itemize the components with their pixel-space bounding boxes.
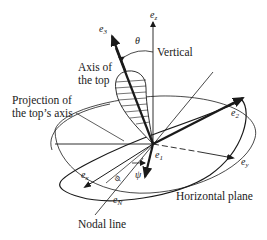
euler-angles-diagram: e3 ez e2 e1 ex ey eN θ φ ψ Axis of the t… bbox=[0, 0, 267, 240]
e2-vector bbox=[153, 98, 243, 144]
projection-label-line2: the top’s axis bbox=[12, 107, 73, 120]
theta-label: θ bbox=[135, 35, 140, 46]
horizontal-plane-label: Horizontal plane bbox=[176, 190, 253, 203]
vertical-label: Vertical bbox=[157, 46, 193, 58]
nodal-line-label: Nodal line bbox=[78, 218, 126, 230]
ey-label: ey bbox=[241, 156, 249, 169]
ex-label: ex bbox=[81, 169, 89, 182]
e1-label: e1 bbox=[155, 149, 163, 162]
ey-vector-hidden bbox=[153, 144, 200, 152]
diagram-canvas: e3 ez e2 e1 ex ey eN θ φ ψ Axis of the t… bbox=[0, 0, 267, 240]
ez-label: ez bbox=[150, 9, 157, 22]
axis-of-top-label-line2: the top bbox=[78, 74, 110, 87]
eN-label: eN bbox=[113, 194, 122, 207]
theta-arc bbox=[124, 51, 153, 57]
ey-vector bbox=[200, 152, 233, 158]
e3-label: e3 bbox=[99, 23, 107, 36]
e2-label: e2 bbox=[231, 107, 239, 120]
projection-label-line1: Projection of bbox=[12, 94, 72, 107]
projection-leader-line bbox=[76, 113, 124, 141]
axis-of-top-label-line1: Axis of bbox=[78, 61, 112, 73]
psi-label: ψ bbox=[135, 169, 142, 180]
